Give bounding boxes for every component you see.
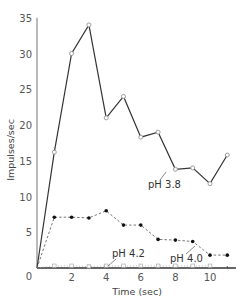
data-point bbox=[122, 94, 126, 98]
series-annotation: pH 3.8 bbox=[148, 179, 181, 190]
x-tick-label: 0 bbox=[26, 271, 32, 282]
y-tick-label: 5 bbox=[26, 227, 32, 238]
data-point bbox=[208, 253, 212, 257]
data-point bbox=[53, 264, 57, 267]
x-tick-label: 8 bbox=[172, 272, 178, 283]
data-point bbox=[87, 265, 91, 268]
x-tick-label: 6 bbox=[138, 272, 144, 283]
data-point bbox=[173, 167, 177, 171]
x-tick-label: 2 bbox=[68, 272, 74, 283]
y-tick-label: 10 bbox=[19, 192, 32, 203]
y-tick-label: 20 bbox=[19, 120, 32, 131]
data-point bbox=[208, 182, 212, 186]
series-layer bbox=[37, 23, 229, 268]
data-point bbox=[53, 215, 57, 219]
data-point bbox=[139, 223, 143, 227]
data-point bbox=[122, 264, 126, 267]
x-tick-label: 4 bbox=[103, 272, 109, 283]
data-point bbox=[139, 264, 143, 267]
data-point bbox=[122, 223, 126, 227]
data-point bbox=[191, 240, 195, 244]
line-chart: 51015202530350246810 pH 3.8pH 4.0pH 4.2 … bbox=[0, 0, 250, 307]
data-point bbox=[70, 264, 74, 267]
y-axis-label: Impulses/sec bbox=[5, 119, 16, 181]
x-axis-label: Time (sec) bbox=[111, 286, 162, 297]
data-point bbox=[191, 264, 195, 267]
data-point bbox=[156, 238, 160, 242]
y-tick-label: 30 bbox=[19, 49, 32, 60]
annotation-pointer bbox=[108, 259, 116, 266]
y-tick-label: 35 bbox=[19, 13, 32, 24]
data-point bbox=[174, 264, 178, 267]
data-point bbox=[156, 130, 160, 134]
data-point bbox=[87, 23, 91, 27]
data-point bbox=[104, 116, 108, 120]
axes: 51015202530350246810 bbox=[19, 13, 236, 283]
series-annotation: pH 4.2 bbox=[112, 248, 145, 259]
x-tick-label: 10 bbox=[204, 272, 217, 283]
data-point bbox=[52, 150, 56, 154]
data-point bbox=[191, 166, 195, 170]
data-point bbox=[156, 264, 160, 267]
data-point bbox=[174, 238, 178, 242]
data-point bbox=[104, 209, 108, 213]
data-point bbox=[70, 52, 74, 56]
data-point bbox=[208, 264, 212, 267]
data-point bbox=[104, 264, 108, 267]
data-point bbox=[70, 215, 74, 219]
annotation-layer: pH 3.8pH 4.0pH 4.2 bbox=[108, 172, 203, 266]
data-point bbox=[87, 216, 91, 220]
series-line-pH-3-8 bbox=[37, 25, 227, 268]
data-point bbox=[139, 135, 143, 139]
series-annotation: pH 4.0 bbox=[170, 253, 203, 264]
data-point bbox=[226, 253, 230, 257]
y-tick-label: 25 bbox=[19, 84, 32, 95]
y-tick-label: 15 bbox=[19, 156, 32, 167]
data-point bbox=[225, 153, 229, 157]
